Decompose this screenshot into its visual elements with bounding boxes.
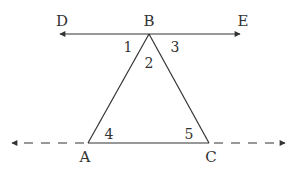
segment-BA	[88, 34, 149, 143]
geometry-diagram: D B E A C 1 2 3 4 5	[0, 0, 293, 171]
point-label-C: C	[205, 148, 216, 166]
point-label-B: B	[143, 12, 154, 30]
point-label-E: E	[238, 12, 249, 30]
angle-label-1: 1	[124, 39, 133, 55]
point-label-A: A	[79, 148, 91, 166]
angle-label-3: 3	[171, 39, 180, 55]
point-label-D: D	[56, 12, 68, 30]
angle-label-4: 4	[105, 126, 114, 142]
angle-label-2: 2	[145, 55, 154, 71]
angle-label-5: 5	[185, 126, 194, 142]
